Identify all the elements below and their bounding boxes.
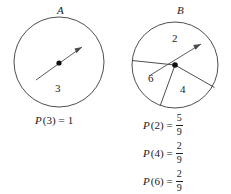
- probability-argument: (6): [151, 176, 164, 187]
- probability-function-symbol: P: [143, 148, 150, 159]
- spinner-a-hub: [56, 60, 61, 65]
- probability-value-fraction: 2 9: [176, 169, 183, 193]
- fraction-numerator: 2: [176, 169, 183, 180]
- spinner-b-divider-2: [160, 65, 175, 105]
- probability-equation-p3: P (3) = 1: [35, 115, 73, 126]
- probability-value-fraction: 2 9: [176, 141, 183, 165]
- probability-function-symbol: P: [143, 176, 150, 187]
- equals-sign: =: [167, 120, 173, 131]
- fraction-numerator: 2: [176, 141, 183, 152]
- probability-function-symbol: P: [143, 120, 150, 131]
- fraction-numerator: 5: [176, 113, 183, 124]
- probability-equation-p2: P (2) = 5 9: [143, 113, 183, 137]
- spinner-b-sector-label-4: 4: [180, 84, 186, 95]
- fraction-denominator: 9: [176, 183, 183, 194]
- spinner-figure: [0, 0, 231, 194]
- spinner-b-needle-arrowhead: [193, 44, 201, 50]
- spinner-b-hub: [172, 62, 178, 68]
- probability-function-symbol: P: [35, 115, 42, 126]
- spinner-a-name: A: [57, 5, 64, 16]
- spinner-a-needle-arrowhead: [75, 47, 83, 53]
- spinner-b-sector-label-6: 6: [148, 73, 154, 84]
- spinner-b-needle: [149, 44, 201, 76]
- spinner-b-name: B: [177, 5, 184, 16]
- probability-argument: (3): [43, 115, 56, 126]
- probability-equation-p6: P (6) = 2 9: [143, 169, 183, 193]
- equals-sign: =: [167, 148, 173, 159]
- probability-argument: (2): [151, 120, 164, 131]
- probability-equation-p4: P (4) = 2 9: [143, 141, 183, 165]
- spinner-a-sector-label-3: 3: [55, 83, 61, 94]
- probability-argument: (4): [151, 148, 164, 159]
- probability-value: 1: [68, 115, 74, 126]
- fraction-denominator: 9: [176, 155, 183, 166]
- spinner-b-sector-label-2: 2: [172, 33, 178, 44]
- equals-sign: =: [167, 176, 173, 187]
- probability-value-fraction: 5 9: [176, 113, 183, 137]
- fraction-denominator: 9: [176, 127, 183, 138]
- equals-sign: =: [59, 115, 65, 126]
